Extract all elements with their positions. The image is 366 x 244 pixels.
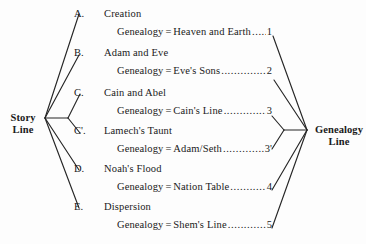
diagram-row: C. Cain and Abel Genealogy = Cain's Line… — [0, 87, 366, 125]
genealogy-label: Genealogy — [117, 219, 163, 231]
leader-dots: ........................................… — [223, 143, 264, 155]
genealogy-value: Cain's Line — [173, 105, 222, 117]
row-letter: A. — [74, 8, 96, 20]
genealogy-label: Genealogy — [117, 26, 163, 38]
row-genealogy: Genealogy = Heaven and Earth ...........… — [117, 26, 272, 38]
equals-sign: = — [163, 26, 173, 38]
row-genealogy: Genealogy = Nation Table ...............… — [117, 181, 272, 193]
row-letter: B. — [74, 47, 96, 59]
genealogy-number: 2 — [266, 65, 272, 77]
row-title: Cain and Abel — [104, 87, 166, 99]
genealogy-number: 1 — [266, 26, 272, 38]
diagram-row: A. Creation Genealogy = Heaven and Earth… — [0, 8, 366, 46]
genealogy-value: Heaven and Earth — [173, 26, 251, 38]
genealogy-value: Shem's Line — [173, 219, 226, 231]
equals-sign: = — [163, 219, 173, 231]
row-genealogy: Genealogy = Adam/Seth ..................… — [117, 143, 272, 155]
genealogy-label: Genealogy — [117, 143, 163, 155]
diagram-row: C'. Lamech's Taunt Genealogy = Adam/Seth… — [0, 125, 366, 163]
genealogy-number: 5 — [266, 219, 272, 231]
row-letter: C. — [74, 87, 96, 99]
equals-sign: = — [163, 65, 173, 77]
leader-dots: ........................................… — [221, 65, 266, 77]
leader-dots: ........................................… — [252, 26, 266, 38]
row-genealogy: Genealogy = Eve's Sons .................… — [117, 65, 272, 77]
story-genealogy-diagram: Story Line Genealogy Line A. Creation Ge… — [0, 0, 366, 244]
leader-dots: ........................................… — [230, 181, 265, 193]
row-letter: E. — [74, 201, 96, 213]
row-title: Dispersion — [104, 201, 151, 213]
row-letter: C'. — [74, 125, 96, 137]
row-title: Noah's Flood — [104, 163, 162, 175]
equals-sign: = — [163, 105, 173, 117]
equals-sign: = — [163, 143, 173, 155]
diagram-row: E. Dispersion Genealogy = Shem's Line ..… — [0, 201, 366, 239]
diagram-row: D. Noah's Flood Genealogy = Nation Table… — [0, 163, 366, 201]
row-title: Adam and Eve — [104, 47, 168, 59]
genealogy-number: 3' — [264, 143, 272, 155]
genealogy-number: 4 — [266, 181, 272, 193]
genealogy-label: Genealogy — [117, 105, 163, 117]
genealogy-label: Genealogy — [117, 181, 163, 193]
row-title: Lamech's Taunt — [104, 125, 172, 137]
genealogy-value: Eve's Sons — [173, 65, 220, 77]
genealogy-value: Nation Table — [173, 181, 229, 193]
equals-sign: = — [163, 181, 173, 193]
leader-dots: ........................................… — [224, 105, 266, 117]
genealogy-label: Genealogy — [117, 65, 163, 77]
genealogy-value: Adam/Seth — [173, 143, 222, 155]
leader-dots: ........................................… — [228, 219, 266, 231]
row-genealogy: Genealogy = Cain's Line ................… — [117, 105, 272, 117]
genealogy-number: 3 — [266, 105, 272, 117]
row-letter: D. — [74, 163, 96, 175]
diagram-row: B. Adam and Eve Genealogy = Eve's Sons .… — [0, 47, 366, 85]
row-genealogy: Genealogy = Shem's Line ................… — [117, 219, 272, 231]
row-title: Creation — [104, 8, 141, 20]
